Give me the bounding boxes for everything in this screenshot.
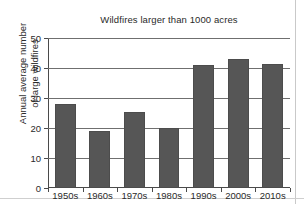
bar <box>124 112 145 189</box>
y-tick-label: 40 <box>30 63 41 74</box>
x-tick-label: 1950s <box>52 190 78 201</box>
bar <box>228 59 249 188</box>
chart-figure: Wildfires larger than 1000 acres Annual … <box>0 0 304 204</box>
x-tick-label: 2000s <box>225 190 251 201</box>
x-tick-label: 1960s <box>87 190 113 201</box>
x-tick-label: 1990s <box>191 190 217 201</box>
x-tick-label: 1980s <box>156 190 182 201</box>
bar <box>159 128 180 188</box>
chart-title: Wildfires larger than 1000 acres <box>48 14 290 25</box>
y-axis-title-line-1: Annual average number <box>17 0 29 149</box>
y-tick-label: 50 <box>30 33 41 44</box>
y-tick-label: 20 <box>30 123 41 134</box>
bar <box>262 64 283 189</box>
bar <box>55 104 76 188</box>
bar <box>89 131 110 188</box>
y-tick-label: 30 <box>30 93 41 104</box>
bar <box>193 65 214 188</box>
y-tick-label: 0 <box>36 183 41 194</box>
x-tick-mark <box>290 188 291 192</box>
bar-series <box>48 38 290 188</box>
x-tick-label: 2010s <box>260 190 286 201</box>
page-rule-right <box>295 0 296 204</box>
x-axis-labels: 1950s1960s1970s1980s1990s2000s2010s <box>48 190 290 203</box>
plot-area: 01020304050 <box>48 38 290 188</box>
y-tick-label: 10 <box>30 153 41 164</box>
x-tick-label: 1970s <box>121 190 147 201</box>
